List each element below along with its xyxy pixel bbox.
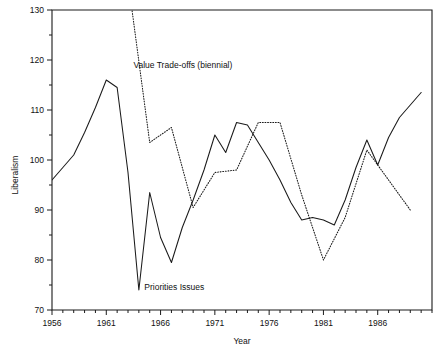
x-tick-label: 1986 (368, 318, 387, 328)
x-tick-label: 1981 (314, 318, 333, 328)
x-tick-label: 1961 (97, 318, 116, 328)
y-tick-label: 80 (35, 255, 45, 265)
annotation-priorities-issues: Priorities Issues (144, 282, 204, 292)
annotation-value-tradeoffs: Value Trade-offs (biennial) (133, 60, 232, 70)
y-tick-label: 130 (30, 5, 44, 15)
y-tick-label: 100 (30, 155, 44, 165)
x-tick-label: 1956 (43, 318, 62, 328)
liberalism-trend-chart: 708090100110120130 195619611966197119761… (0, 0, 448, 347)
chart-canvas: 708090100110120130 195619611966197119761… (0, 0, 448, 347)
x-tick-label: 1971 (205, 318, 224, 328)
x-tick-label: 1976 (260, 318, 279, 328)
y-tick-label: 70 (35, 305, 45, 315)
x-axis-title: Year (233, 336, 250, 346)
x-tick-label: 1966 (151, 318, 170, 328)
y-tick-label: 110 (30, 105, 44, 115)
y-axis-title: Liberalism (10, 156, 20, 195)
y-tick-label: 90 (35, 205, 45, 215)
chart-background (0, 0, 448, 347)
y-tick-label: 120 (30, 55, 44, 65)
